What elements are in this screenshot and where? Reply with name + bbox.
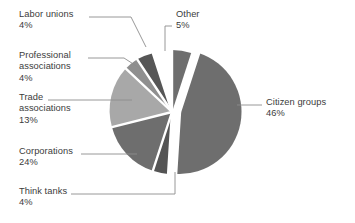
label-other-name: Other [176,9,200,20]
label-citizen-groups-name: Citizen groups [266,97,326,108]
label-other: Other 5% [176,9,200,32]
label-think-tanks-name: Think tanks [19,186,67,197]
label-citizen-groups-value: 46% [266,108,326,119]
label-trade-associations: Trade associations 13% [19,92,71,126]
leader-line-think-tanks [71,172,175,194]
label-corporations: Corporations 24% [19,146,73,169]
label-labor-unions-name: Labor unions [19,9,73,20]
slice-citizen-groups [176,53,242,174]
label-other-value: 5% [176,20,200,31]
label-trade-associations-line2: associations [19,103,71,114]
leader-line-labor-unions [89,17,146,47]
label-professional-associations: Professional associations 4% [19,50,71,84]
label-think-tanks: Think tanks 4% [19,186,67,209]
label-professional-associations-line1: Professional [19,50,71,61]
label-labor-unions: Labor unions 4% [19,9,73,32]
label-think-tanks-value: 4% [19,197,67,208]
label-labor-unions-value: 4% [19,20,73,31]
label-citizen-groups: Citizen groups 46% [266,97,326,120]
leader-line-other [165,26,172,51]
label-corporations-value: 24% [19,157,73,168]
pie-chart-figure: Labor unions 4% Professional association… [0,0,355,223]
label-professional-associations-value: 4% [19,73,71,84]
label-trade-associations-line1: Trade [19,92,71,103]
label-professional-associations-line2: associations [19,61,71,72]
label-corporations-name: Corporations [19,146,73,157]
label-trade-associations-value: 13% [19,115,71,126]
